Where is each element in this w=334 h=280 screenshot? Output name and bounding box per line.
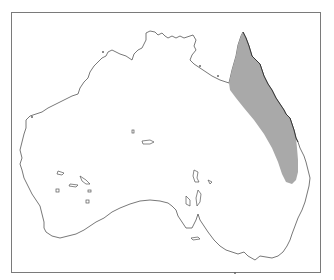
island — [234, 272, 236, 274]
island — [31, 116, 33, 118]
australia-map — [0, 0, 334, 280]
australia-coastline — [20, 31, 310, 260]
island — [217, 75, 219, 77]
inland-lakes — [56, 130, 212, 240]
island — [199, 65, 201, 67]
species-range — [229, 32, 298, 184]
island — [102, 51, 104, 53]
